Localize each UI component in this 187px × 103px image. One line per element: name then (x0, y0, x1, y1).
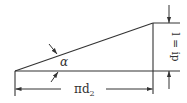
angle-arrow-bottom (51, 72, 58, 82)
angle-label: α (60, 55, 68, 69)
hypotenuse (15, 23, 153, 71)
base-label-subscript: 2 (90, 89, 95, 98)
height-label: l = ip (170, 33, 182, 62)
angle-arrow-top (49, 44, 57, 54)
lead-angle-diagram: α πd2 l = ip (0, 0, 187, 103)
base-label: πd2 (74, 82, 95, 98)
base-label-main: πd (74, 82, 90, 96)
